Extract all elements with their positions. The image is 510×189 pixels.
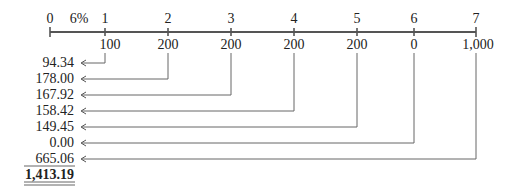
cash-flow-label: 200 [221, 38, 242, 52]
period-label: 1 [102, 12, 109, 26]
period-label: 4 [291, 12, 298, 26]
period-label: 2 [165, 12, 172, 26]
present-value: 94.34 [43, 56, 75, 70]
cash-flow-label: 1,000 [462, 38, 494, 52]
period-label: 0 [47, 12, 54, 26]
cash-flow-label: 200 [284, 38, 305, 52]
period-label: 6 [411, 12, 418, 26]
period-label: 5 [354, 12, 361, 26]
present-value: 158.42 [36, 104, 75, 118]
present-value-total: 1,413.19 [25, 168, 74, 182]
cash-flow-label: 100 [100, 38, 121, 52]
rate-label: 6% [70, 12, 89, 26]
cash-flow-label: 200 [158, 38, 179, 52]
present-value: 665.06 [36, 152, 75, 166]
discount-connectors [82, 53, 476, 159]
cash-flow-label: 200 [347, 38, 368, 52]
timeline-diagram [0, 0, 510, 189]
period-label: 3 [228, 12, 235, 26]
cash-flow-label: 0 [411, 38, 418, 52]
period-label: 7 [473, 12, 480, 26]
present-value: 167.92 [36, 88, 75, 102]
present-value: 149.45 [36, 120, 75, 134]
present-value: 178.00 [36, 72, 75, 86]
present-value: 0.00 [50, 136, 75, 150]
